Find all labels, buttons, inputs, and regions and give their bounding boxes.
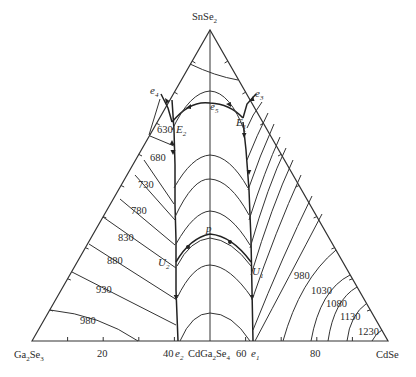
corner-label-cdse: CdSe xyxy=(376,349,399,360)
axis-tick-20: 20 xyxy=(97,348,108,359)
right-isotherms xyxy=(247,102,382,341)
triangle-outline xyxy=(32,30,388,341)
isotherm-label-630: 630 xyxy=(157,124,173,135)
isotherm-label-1230: 1230 xyxy=(358,326,379,337)
point-label-p: p xyxy=(205,222,212,234)
ternary-diagram-svg: SnSe2 Ga2Se3 CdSe 20 40 e2 CdGa2Se4 60 e… xyxy=(0,0,416,377)
point-label-U1: U1 xyxy=(252,265,263,280)
phase-diagram: SnSe2 Ga2Se3 CdSe 20 40 e2 CdGa2Se4 60 e… xyxy=(0,0,416,377)
isotherm-label-1030: 1030 xyxy=(311,285,332,296)
axis-tick-40: 40 xyxy=(163,348,174,359)
isotherm-label-930: 930 xyxy=(96,284,112,295)
point-label-e3: e3 xyxy=(255,87,264,102)
axis-tick-80: 80 xyxy=(310,348,321,359)
point-label-E1: E1 xyxy=(235,116,246,131)
isotherm-label-730: 730 xyxy=(138,179,154,190)
central-isotherms xyxy=(172,91,252,341)
left-side-ticks xyxy=(50,61,196,311)
isotherm-label-680: 680 xyxy=(150,152,166,163)
corner-label-ga2se3: Ga2Se3 xyxy=(14,349,44,363)
isotherm-label-830: 830 xyxy=(118,232,134,243)
isotherm-label-1080: 1080 xyxy=(326,298,347,309)
point-label-e5: e5 xyxy=(210,100,219,115)
point-label-e2: e2 xyxy=(175,347,184,362)
isotherm-label-980-left: 980 xyxy=(80,315,96,326)
left-isotherms xyxy=(50,99,177,341)
corner-label-snse2: SnSe2 xyxy=(192,11,218,25)
isotherm-label-980-right: 980 xyxy=(294,270,310,281)
isotherm-label-880: 880 xyxy=(107,255,123,266)
compound-label-cdga2se4: CdGa2Se4 xyxy=(188,348,231,362)
isotherm-label-780: 780 xyxy=(131,205,147,216)
isotherm-label-1130: 1130 xyxy=(340,311,361,322)
point-label-E2: E2 xyxy=(175,123,187,138)
axis-tick-60: 60 xyxy=(236,348,247,359)
point-label-U2: U2 xyxy=(158,256,170,271)
point-label-e4: e4 xyxy=(150,84,159,99)
point-label-e1: e1 xyxy=(251,347,259,362)
